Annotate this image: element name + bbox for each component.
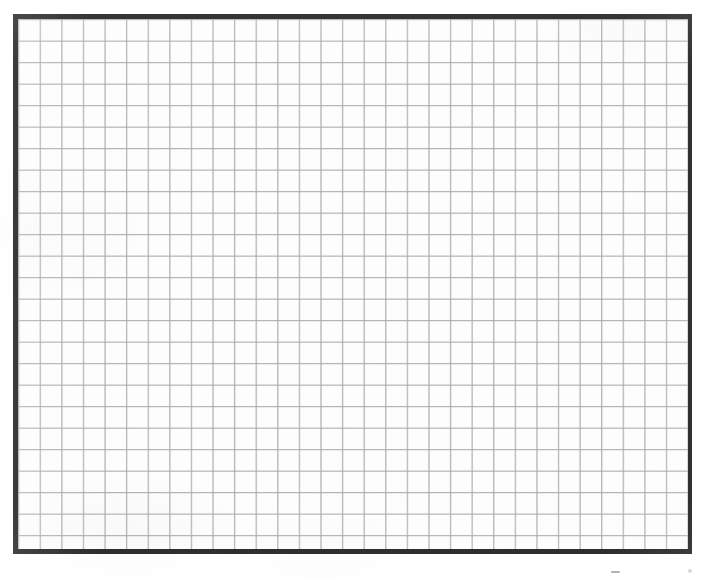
- scanned-page: [0, 0, 704, 578]
- scan-dust-speck-secondary: [688, 569, 692, 573]
- grid-surface: [18, 19, 688, 549]
- scan-dust-speck: [611, 571, 620, 573]
- grid-border-frame: [13, 14, 692, 554]
